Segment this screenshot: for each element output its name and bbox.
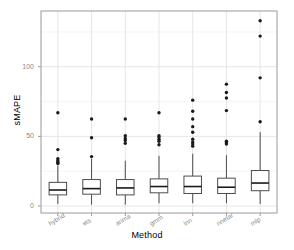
outlier-point [191,98,194,101]
outlier-point [258,34,261,37]
y-tick-label: 50 [16,132,34,139]
box [49,182,67,195]
outlier-point [258,76,261,79]
box [251,171,269,191]
y-tick-label: 100 [16,63,34,70]
plot-area [0,0,294,250]
outlier-point [225,91,228,94]
outlier-point [124,134,127,137]
outlier-point [258,120,261,123]
outlier-point [124,117,127,120]
box [83,180,101,195]
y-tick-label: 0 [16,202,34,209]
outlier-point [225,109,228,112]
boxplot-chart: sMAPE Method 050100 hybridetsarimagmmlnn… [0,0,294,250]
outlier-point [191,137,194,140]
box [184,176,202,193]
outlier-point [157,143,160,146]
outlier-point [157,111,160,114]
outlier-point [225,140,228,143]
outlier-point [90,136,93,139]
outlier-point [56,148,59,151]
outlier-point [191,125,194,128]
outlier-point [90,117,93,120]
outlier-point [90,155,93,158]
outlier-point [191,117,194,120]
outlier-point [56,157,59,160]
outlier-point [157,134,160,137]
box [218,178,236,193]
outlier-point [191,110,194,113]
outlier-point [56,111,59,114]
outlier-point [258,19,261,22]
x-axis-title: Method [0,230,294,240]
outlier-point [191,131,194,134]
outlier-point [225,82,228,85]
y-axis-title: sMAPE [12,80,22,140]
outlier-point [225,96,228,99]
